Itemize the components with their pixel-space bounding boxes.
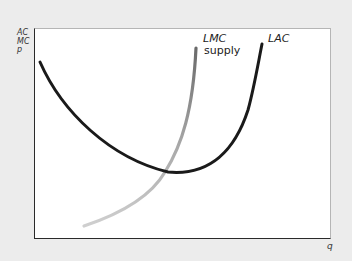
curves-layer xyxy=(0,0,352,261)
lmc-supply-curve xyxy=(84,48,196,226)
lac-curve xyxy=(40,44,262,172)
lac-label: LAC xyxy=(268,33,289,45)
supply-label: supply xyxy=(204,45,240,57)
